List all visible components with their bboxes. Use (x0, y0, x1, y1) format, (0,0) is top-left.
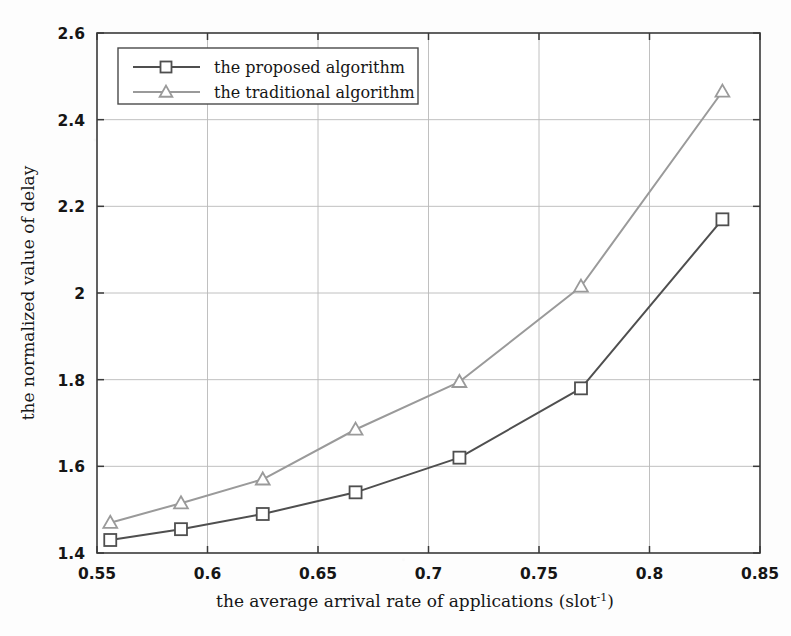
legend-label: the traditional algorithm (214, 83, 415, 102)
y-tick-label: 1.4 (58, 545, 86, 563)
y-axis-title: the normalized value of delay (18, 165, 38, 420)
x-axis-title-tail: ) (607, 591, 614, 611)
x-tick-label: 0.55 (78, 565, 116, 583)
chart-figure: 0.550.60.650.70.750.80.85 1.41.61.822.22… (0, 0, 791, 636)
y-tick-label: 2.6 (58, 25, 85, 43)
delay-vs-arrival-rate-line-chart: 0.550.60.650.70.750.80.85 1.41.61.822.22… (0, 0, 791, 636)
square-marker (716, 213, 728, 225)
x-axis-title-base: the average arrival rate of applications… (216, 591, 597, 611)
square-marker (161, 62, 172, 73)
chart-legend[interactable]: the proposed algorithmthe traditional al… (118, 48, 418, 104)
x-tick-label: 0.75 (520, 565, 558, 583)
y-tick-labels: 1.41.61.822.22.42.6 (58, 25, 86, 563)
x-tick-label: 0.7 (415, 565, 442, 583)
square-marker (575, 382, 587, 394)
x-tick-label: 0.85 (741, 565, 779, 583)
square-marker (257, 508, 269, 520)
y-tick-label: 2.4 (58, 112, 86, 130)
y-tick-label: 2 (74, 285, 85, 303)
x-tick-label: 0.65 (299, 565, 337, 583)
x-tick-label: 0.6 (194, 565, 221, 583)
square-marker (104, 534, 116, 546)
legend-label: the proposed algorithm (214, 58, 405, 77)
x-axis-title: the average arrival rate of applications… (216, 591, 614, 611)
square-marker (175, 523, 187, 535)
square-marker (453, 452, 465, 464)
y-tick-label: 1.6 (58, 458, 85, 476)
y-tick-label: 1.8 (58, 372, 85, 390)
x-axis-title-exponent: -1 (597, 591, 608, 604)
x-tick-labels: 0.550.60.650.70.750.80.85 (78, 565, 779, 583)
x-tick-label: 0.8 (636, 565, 663, 583)
y-tick-label: 2.2 (58, 198, 85, 216)
square-marker (350, 486, 362, 498)
